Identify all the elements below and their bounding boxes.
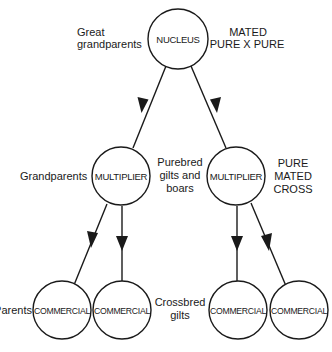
node-label-nucleus: NUCLEUS [156, 34, 199, 45]
edge-nucleus-to-multiplier-left [133, 66, 166, 148]
annotation-text: gilts and [160, 169, 201, 181]
node-label-commercial-2: COMMERCIAL [94, 305, 150, 316]
arrowhead-icon [138, 97, 149, 113]
annotation-text: gilts [170, 309, 190, 321]
annotation-text: Parents [0, 304, 32, 316]
node-label-commercial-1: COMMERCIAL [34, 305, 90, 316]
annotation-grandparents: Grandparents [20, 170, 88, 182]
node-multiplier-left: MULTIPLIER [92, 147, 150, 205]
arrowhead-icon [231, 236, 243, 251]
node-nucleus: NUCLEUS [148, 9, 208, 69]
edge-nucleus-to-multiplier-right [191, 66, 226, 148]
annotation-parents: Parents [0, 304, 32, 316]
annotation-text: PURE X PURE [210, 38, 285, 50]
node-label-commercial-4: COMMERCIAL [271, 305, 327, 316]
annotation-text: boars [166, 182, 194, 194]
node-commercial-2: COMMERCIAL [93, 281, 151, 339]
annotation-text: PURE [278, 157, 309, 169]
annotation-text: Crossbred [155, 296, 206, 308]
annotation-mated-pure: MATED PURE X PURE [210, 26, 285, 50]
annotation-great-grandparents: Great grandparents [77, 26, 142, 50]
node-label-multiplier-left: MULTIPLIER [95, 171, 148, 182]
node-multiplier-right: MULTIPLIER [207, 147, 265, 205]
arrowhead-icon [116, 236, 128, 251]
edge-multiplier-right-to-commercial-3 [231, 206, 243, 282]
annotation-text: Purebred [157, 156, 202, 168]
annotation-text: MATED [229, 26, 267, 38]
edge-multiplier-right-to-commercial-4 [251, 203, 286, 286]
edge-multiplier-left-to-commercial-1 [74, 204, 107, 285]
annotation-text: MATED [274, 170, 312, 182]
node-label-commercial-3: COMMERCIAL [210, 305, 266, 316]
node-label-multiplier-right: MULTIPLIER [210, 171, 263, 182]
arrowhead-icon [87, 231, 98, 248]
annotation-text: Great [77, 26, 105, 38]
annotation-text: grandparents [77, 38, 142, 50]
arrowhead-icon [210, 97, 221, 113]
annotation-text: CROSS [273, 183, 312, 195]
annotation-purebred: Purebred gilts and boars [157, 156, 202, 194]
annotation-text: Grandparents [20, 170, 88, 182]
node-commercial-4: COMMERCIAL [270, 281, 328, 339]
node-commercial-1: COMMERCIAL [33, 281, 91, 339]
annotation-crossbred: Crossbred gilts [155, 296, 206, 321]
edge-multiplier-left-to-commercial-2 [116, 206, 128, 283]
breeding-pyramid-diagram: NUCLEUS MULTIPLIER MULTIPLIER COMMERCIAL… [0, 0, 332, 352]
annotation-pure-mated-cross: PURE MATED CROSS [273, 157, 312, 195]
node-commercial-3: COMMERCIAL [209, 281, 267, 339]
